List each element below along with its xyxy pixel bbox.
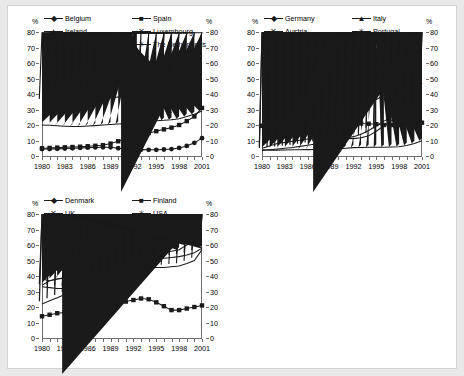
legend-label: Denmark	[65, 197, 94, 204]
y-tick-label: 20	[247, 121, 255, 130]
y-tick-label: 50	[430, 75, 438, 84]
y-tick-label: 30	[210, 106, 218, 115]
y-tick-label: 70	[210, 226, 218, 235]
y-axis-left: 01020304050607080	[16, 214, 39, 338]
y-tick-label: 40	[430, 90, 438, 99]
diamond-icon: ◆	[264, 14, 283, 23]
figure-frame: ◆Belgium■Spain▲Ireland✕Luxembourg●Greece…	[7, 5, 457, 369]
y-tick-label: 40	[247, 90, 255, 99]
x-tick-label: 1983	[57, 162, 73, 171]
y-axis-unit-right: %	[206, 200, 212, 207]
y-axis-right: 01020304050607080	[425, 32, 449, 156]
legend-label: Finland	[153, 197, 177, 204]
x-tick-label: 2001	[194, 162, 210, 171]
x-tick-label: 2001	[414, 162, 430, 171]
diamond-icon: ◆	[44, 196, 63, 205]
y-tick-label: 0	[430, 152, 434, 161]
x-tick-label: 1995	[368, 162, 384, 171]
y-tick-label: 50	[247, 75, 255, 84]
x-tick-label: 1998	[171, 162, 187, 171]
x-tick-label: 1989	[103, 344, 119, 353]
y-tick-label: 50	[27, 257, 35, 266]
series-layer	[42, 32, 202, 156]
y-axis-left: 01020304050607080	[16, 32, 39, 156]
y-axis-unit-left: %	[32, 18, 38, 25]
y-tick-label: 80	[210, 210, 218, 219]
y-tick-label: 30	[247, 106, 255, 115]
y-axis-unit-left: %	[252, 18, 258, 25]
series-layer	[42, 214, 202, 338]
x-tick-label: 1995	[148, 162, 164, 171]
y-tick-label: 80	[27, 210, 35, 219]
y-tick-label: 0	[31, 334, 35, 343]
y-tick-label: 80	[430, 28, 438, 37]
x-tick-label: 1998	[171, 344, 187, 353]
x-tick-label: 1980	[34, 344, 50, 353]
y-tick-label: 60	[210, 241, 218, 250]
square-icon: ■	[132, 196, 151, 205]
legend-item: ◆Denmark	[44, 194, 132, 207]
y-tick-label: 80	[210, 28, 218, 37]
chart-panel-0: ◆Belgium■Spain▲Ireland✕Luxembourg●Greece…	[16, 10, 228, 186]
x-tick-label: 1995	[148, 344, 164, 353]
y-tick-label: 30	[210, 288, 218, 297]
y-tick-label: 70	[27, 44, 35, 53]
y-tick-label: 60	[247, 59, 255, 68]
y-tick-label: 60	[210, 59, 218, 68]
y-tick-label: 60	[27, 241, 35, 250]
y-tick-label: 0	[31, 152, 35, 161]
chart-panel-1: ◆Germany▲Italy✕Austria✳Portugal■France%%…	[236, 10, 448, 186]
legend-item: ◆Germany	[264, 12, 352, 25]
y-tick-label: 30	[27, 288, 35, 297]
y-tick-label: 70	[27, 226, 35, 235]
y-tick-label: 0	[251, 152, 255, 161]
legend-item: ◆Belgium	[44, 12, 132, 25]
y-tick-label: 0	[210, 152, 214, 161]
y-tick-label: 60	[27, 59, 35, 68]
y-axis-unit-right: %	[426, 18, 432, 25]
y-tick-label: 10	[210, 319, 218, 328]
y-tick-label: 20	[210, 303, 218, 312]
panel-nordic-anglo: ◆Denmark■Finland✕UK✳USA▲Sweden%%01020304…	[16, 192, 228, 368]
x-tick-label: 1983	[277, 162, 293, 171]
y-axis-right: 01020304050607080	[205, 32, 229, 156]
legend-label: Spain	[153, 15, 171, 22]
x-tick-label: 1986	[80, 162, 96, 171]
y-tick-label: 20	[27, 303, 35, 312]
y-tick-label: 20	[210, 121, 218, 130]
y-tick-label: 20	[27, 121, 35, 130]
x-tick-label: 1992	[125, 344, 141, 353]
y-tick-label: 80	[247, 28, 255, 37]
legend-label: Belgium	[65, 15, 91, 22]
y-tick-label: 40	[210, 90, 218, 99]
y-tick-label: 60	[430, 59, 438, 68]
y-tick-label: 40	[27, 90, 35, 99]
legend-label: Germany	[285, 15, 315, 22]
x-axis: 19801983198619891992199519982001	[262, 157, 422, 173]
x-tick-label: 2001	[194, 344, 210, 353]
y-tick-label: 0	[210, 334, 214, 343]
y-tick-label: 70	[210, 44, 218, 53]
y-tick-label: 30	[430, 106, 438, 115]
series-layer	[262, 32, 422, 156]
x-tick-label: 1980	[34, 162, 50, 171]
y-axis-left: 01020304050607080	[236, 32, 259, 156]
y-tick-label: 80	[27, 28, 35, 37]
y-tick-label: 40	[27, 272, 35, 281]
chart-panel-2: ◆Denmark■Finland✕UK✳USA▲Sweden%%01020304…	[16, 192, 228, 368]
diamond-icon: ◆	[44, 14, 63, 23]
panel-europe-central: ◆Germany▲Italy✕Austria✳Portugal■France%%…	[236, 10, 448, 186]
y-tick-label: 10	[430, 137, 438, 146]
y-tick-label: 30	[27, 106, 35, 115]
triangle-icon: ▲	[352, 14, 371, 23]
y-tick-label: 50	[210, 257, 218, 266]
x-tick-label: 1992	[345, 162, 361, 171]
panel-europe-south: ◆Belgium■Spain▲Ireland✕Luxembourg●Greece…	[16, 10, 228, 186]
x-tick-label: 1980	[254, 162, 270, 171]
y-tick-label: 40	[210, 272, 218, 281]
y-axis-right: 01020304050607080	[205, 214, 229, 338]
y-tick-label: 50	[210, 75, 218, 84]
x-tick-label: 1989	[103, 162, 119, 171]
square-icon: ■	[132, 14, 151, 23]
y-axis-unit-left: %	[32, 200, 38, 207]
